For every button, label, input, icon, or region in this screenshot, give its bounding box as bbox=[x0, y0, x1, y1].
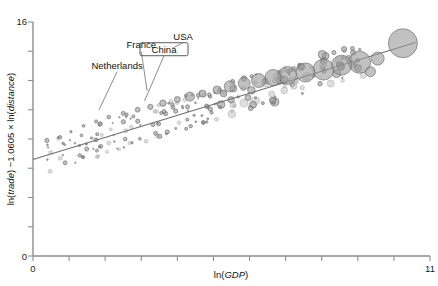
scatter-point bbox=[90, 137, 93, 140]
scatter-point bbox=[195, 121, 197, 123]
scatter-point bbox=[46, 159, 48, 161]
scatter-point bbox=[82, 156, 85, 159]
scatter-point bbox=[154, 131, 158, 135]
scatter-point bbox=[248, 106, 253, 111]
y-axis-max-label: 16 bbox=[16, 16, 27, 27]
scatter-point bbox=[118, 148, 121, 151]
scatter-point bbox=[220, 90, 227, 97]
scatter-point bbox=[123, 146, 125, 148]
x-axis-min-label: 0 bbox=[30, 263, 35, 274]
scatter-point bbox=[185, 105, 189, 109]
bubble-country bbox=[174, 97, 180, 103]
scatter-point bbox=[193, 114, 196, 117]
scatter-point bbox=[228, 110, 236, 118]
scatter-point bbox=[202, 123, 203, 124]
scatter-point bbox=[75, 162, 77, 164]
bubble-country bbox=[160, 100, 166, 106]
bubble-country bbox=[213, 86, 221, 94]
annotation-label-netherlands: Netherlands bbox=[91, 60, 142, 71]
scatter-point bbox=[327, 80, 334, 87]
scatter-point bbox=[95, 155, 99, 159]
scatter-point bbox=[318, 81, 322, 85]
bubble-country bbox=[371, 52, 384, 65]
scatter-point bbox=[201, 114, 203, 116]
scatter-point bbox=[63, 161, 67, 165]
scatter-point bbox=[255, 97, 257, 99]
scatter-point bbox=[144, 139, 148, 143]
bubble-country bbox=[365, 67, 375, 77]
scatter-point bbox=[171, 103, 175, 107]
scatter-point bbox=[112, 122, 113, 123]
scatter-point bbox=[208, 107, 212, 111]
scatter-point bbox=[174, 109, 178, 113]
leader-line-france bbox=[141, 51, 147, 90]
scatter-point bbox=[198, 97, 199, 98]
scatter-point bbox=[189, 124, 192, 127]
scatter-point bbox=[165, 133, 167, 135]
scatter-point bbox=[158, 134, 162, 138]
scatter-point bbox=[300, 85, 304, 89]
scatter-point bbox=[194, 102, 196, 104]
scatter-point bbox=[208, 93, 212, 97]
scatter-point bbox=[136, 119, 140, 123]
scatter-point bbox=[272, 101, 275, 104]
scatter-point bbox=[269, 91, 275, 97]
bubble-country bbox=[135, 107, 140, 112]
scatter-point bbox=[98, 122, 102, 126]
chart-canvas: 16 0 0 11 ln(trade) −1.0605 × ln(distanc… bbox=[0, 0, 438, 286]
scatter-point bbox=[177, 121, 181, 125]
scatter-point bbox=[240, 99, 248, 107]
scatter-point bbox=[130, 125, 134, 129]
scatter-point bbox=[281, 87, 288, 94]
bubble-country bbox=[121, 111, 125, 115]
scatter-point bbox=[69, 139, 71, 141]
bubble-country bbox=[47, 144, 49, 146]
scatter-point bbox=[64, 144, 66, 146]
scatter-point bbox=[301, 92, 303, 94]
bubble-country bbox=[199, 90, 206, 97]
scatter-point bbox=[80, 134, 83, 137]
bubble-netherlands bbox=[296, 63, 315, 82]
leader-line-netherlands bbox=[99, 72, 117, 110]
scatter-point bbox=[341, 46, 346, 51]
scatter-point bbox=[48, 169, 52, 173]
scatter-point bbox=[342, 77, 344, 79]
scatter-point bbox=[132, 115, 135, 118]
scatter-point bbox=[130, 118, 132, 120]
scatter-point bbox=[233, 104, 236, 107]
bubble-country bbox=[265, 70, 281, 86]
bubble-usa bbox=[388, 29, 417, 58]
bubble-country bbox=[278, 66, 296, 84]
bubble-country bbox=[82, 124, 85, 127]
scatter-point bbox=[275, 98, 277, 100]
scatter-point bbox=[350, 46, 354, 50]
scatter-point bbox=[157, 122, 161, 126]
bubble-country bbox=[252, 74, 266, 88]
bubble-country bbox=[313, 59, 334, 80]
bubble-country bbox=[148, 104, 153, 109]
scatter-point bbox=[100, 133, 103, 136]
annotation-label-china: China bbox=[152, 44, 178, 55]
y-axis-ticks bbox=[28, 22, 33, 256]
scatter-point bbox=[62, 154, 64, 156]
scatter-point bbox=[95, 149, 98, 152]
scatter-point bbox=[93, 148, 95, 150]
scatter-point bbox=[160, 112, 163, 115]
scatter-point bbox=[214, 117, 218, 121]
scatter-point bbox=[113, 141, 115, 143]
scatter-point bbox=[358, 48, 361, 51]
scatter-point bbox=[74, 142, 76, 144]
y-axis-title: ln(trade) −1.0605 × ln(distance) bbox=[5, 73, 16, 206]
scatter-point bbox=[98, 146, 101, 149]
scatter-point bbox=[109, 128, 112, 131]
scatter-point bbox=[274, 96, 276, 98]
bubble-country bbox=[57, 137, 59, 139]
scatter-point bbox=[175, 127, 177, 129]
scatter-point bbox=[219, 106, 222, 109]
scatter-point bbox=[107, 141, 111, 145]
scatter-point bbox=[119, 116, 121, 118]
y-axis-min-label: 0 bbox=[22, 251, 27, 262]
scatter-point bbox=[47, 147, 49, 149]
leader-line-china bbox=[145, 56, 164, 101]
x-axis-title: ln(GDP) bbox=[214, 269, 248, 280]
